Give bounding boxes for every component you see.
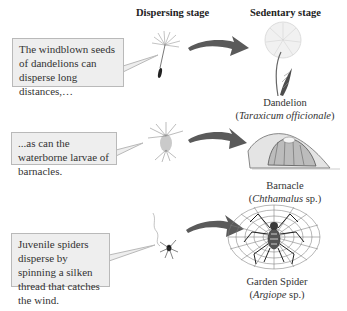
scientific-name: (Taraxicum officionale)	[230, 109, 340, 122]
dandelion-plant-icon	[265, 22, 301, 96]
caption-garden-spider: Garden Spider (Argiope sp.)	[232, 275, 322, 301]
scientific-name: (Argiope sp.)	[232, 288, 322, 301]
arrow-icon-1	[188, 36, 249, 56]
callout-box-spider: Juvenile spiders disperse by spinning a …	[11, 233, 110, 287]
sci-suffix: sp.	[303, 193, 318, 204]
scientific-name: (Chthamalus sp.)	[240, 192, 330, 205]
genus: Argiope	[253, 289, 286, 300]
arrow-icon-3	[186, 215, 244, 237]
juvenile-spider-icon	[153, 213, 178, 259]
barnacle-larva-icon	[148, 122, 183, 162]
callout-pointer-2	[116, 143, 143, 156]
common-name: Barnacle	[240, 179, 330, 192]
dandelion-seed-icon	[152, 31, 180, 78]
caption-dandelion: Dandelion (Taraxicum officionale)	[230, 96, 340, 122]
genus: Chthamalus	[252, 193, 303, 204]
garden-spider-web-icon	[228, 205, 320, 269]
callout-pointer-3	[109, 245, 155, 261]
common-name: Dandelion	[230, 96, 340, 109]
arrow-icon-2	[188, 128, 247, 149]
caption-barnacle: Barnacle (Chthamalus sp.)	[240, 179, 330, 205]
barnacle-icon	[248, 134, 340, 169]
common-name: Garden Spider	[232, 275, 322, 288]
callout-box-barnacle: ...as can the waterborne larvae of barna…	[11, 132, 117, 165]
callout-pointer-1	[123, 55, 158, 72]
callout-box-dandelion: The windblown seeds of dandelions can di…	[12, 38, 124, 87]
genus-species: Taraxicum officionale	[239, 110, 331, 121]
sci-suffix: sp.	[286, 289, 301, 300]
